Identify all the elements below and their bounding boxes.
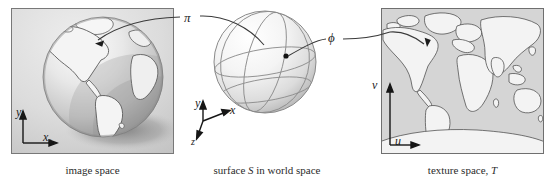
map-japan — [529, 47, 536, 55]
world-space-sphere-illustration — [186, 4, 346, 154]
world-space-x-axis-label: x — [230, 103, 235, 118]
image-space-x-axis-label: xs — [43, 130, 51, 145]
pi-mapping-label: π — [184, 10, 191, 26]
texture-space-u-axis-label: u — [395, 134, 401, 149]
world-space-z-axis-label: z — [191, 136, 195, 147]
image-space-caption: image space — [11, 164, 174, 176]
world-space-caption: surface S in world space — [186, 164, 348, 176]
surface-point-marker — [283, 53, 288, 58]
map-new-zealand — [538, 115, 542, 121]
world-space-y-axis-label: y — [195, 96, 200, 111]
map-australia — [514, 89, 541, 113]
map-arctic-islands — [397, 16, 419, 27]
texture-mapping-figure: ys xs image space — [0, 0, 555, 187]
texture-space-map-illustration — [381, 8, 544, 154]
texture-space-caption: texture space, T — [381, 164, 544, 176]
phi-mapping-label: ϕ — [328, 30, 335, 46]
image-space-illustration — [11, 8, 174, 154]
map-madagascar — [493, 99, 498, 107]
texture-space-v-axis-label: v — [372, 78, 377, 93]
world-space-panel — [186, 4, 346, 154]
world-space-axes — [197, 101, 230, 139]
image-space-y-axis-label: ys — [16, 105, 24, 120]
sphere-body — [214, 11, 316, 113]
image-space-panel — [11, 8, 174, 154]
texture-space-panel — [381, 8, 544, 154]
